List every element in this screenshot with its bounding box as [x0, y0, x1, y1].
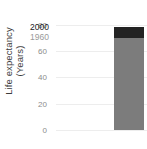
- bar-segment-2000[interactable]: [114, 27, 144, 38]
- y-tick-label-20: 20: [38, 99, 47, 108]
- gridline-80: [56, 25, 147, 26]
- y-axis-title: Life expectancy (Years): [2, 15, 28, 107]
- y-tick-label-0: 0: [43, 126, 47, 135]
- bar-stack[interactable]: [114, 27, 144, 130]
- y-tick-label-60: 60: [38, 47, 47, 56]
- plot-area: 80 60 40 20 0 2000 1960: [52, 18, 147, 130]
- life-expectancy-bar-chart: Life expectancy (Years) 80 60 40 20 0 20…: [0, 0, 147, 149]
- y-tick-label-40: 40: [38, 73, 47, 82]
- series-label-2000: 2000: [30, 22, 49, 32]
- bar-segment-1960[interactable]: [114, 38, 144, 130]
- series-label-1960: 1960: [30, 32, 49, 42]
- gridline-0: [56, 130, 147, 131]
- y-axis-title-line-2: (Years): [15, 46, 26, 77]
